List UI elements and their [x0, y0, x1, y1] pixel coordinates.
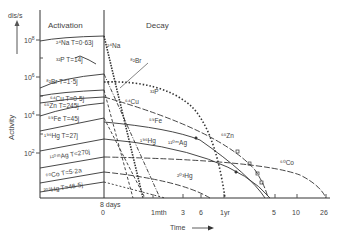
svg-text:¹⁹⁶Hg T=27j: ¹⁹⁶Hg T=27j [44, 132, 78, 140]
svg-text:10: 10 [292, 209, 300, 216]
svg-text:¹¹⁰ᵐAg: ¹¹⁰ᵐAg [168, 139, 187, 147]
svg-text:³²P T=14j: ³²P T=14j [56, 56, 83, 64]
x-axis-title: Time [170, 224, 185, 231]
decay-p [104, 82, 225, 198]
svg-text:3: 3 [181, 209, 185, 216]
svg-text:⁵⁹Fe: ⁵⁹Fe [149, 117, 162, 124]
svg-text:⁶⁵Zn T=245j: ⁶⁵Zn T=245j [44, 102, 79, 110]
svg-text:26: 26 [320, 209, 328, 216]
svg-text:²⁰³Hg: ²⁰³Hg [177, 172, 193, 180]
svg-text:²⁴Na: ²⁴Na [107, 42, 121, 49]
activity-decay-chart: dis/s Activity Activation Decay 108 106 … [0, 0, 338, 236]
decay-labels: ²⁴Na ⁸²Br ³²P ⁶⁴Cu ⁵⁹Fe ⁶⁵Zn ¹⁹⁶Hg ¹¹⁰ᵐA… [107, 42, 294, 180]
svg-text:8 days: 8 days [100, 201, 121, 209]
activation-labels: ²⁴Na T=0·63j ³²P T=14j ⁸²Br T=1·5j ⁶⁴Cu … [43, 39, 93, 195]
y-axis-title: Activity [7, 115, 16, 140]
x-tick-labels: 8 days 0 1mth 3 6 1yr 5 10 26 [100, 201, 328, 217]
svg-text:¹⁹⁶Hg: ¹⁹⁶Hg [140, 137, 156, 145]
svg-text:⁸²Br T=1·5j: ⁸²Br T=1·5j [46, 78, 78, 86]
svg-text:5: 5 [272, 209, 276, 216]
svg-text:0: 0 [101, 209, 105, 216]
svg-text:102: 102 [24, 148, 35, 157]
svg-text:106: 106 [24, 72, 35, 81]
svg-text:²⁴Na T=0·63j: ²⁴Na T=0·63j [56, 39, 93, 47]
svg-text:108: 108 [24, 35, 35, 44]
svg-text:³²P: ³²P [150, 88, 159, 95]
svg-text:²⁰³Hg T=46·5j: ²⁰³Hg T=46·5j [43, 181, 83, 195]
x-axis-arrow-icon [192, 226, 214, 231]
svg-text:⁵⁹Fe T=45j: ⁵⁹Fe T=45j [48, 115, 79, 123]
decay-hg203 [104, 172, 210, 198]
svg-text:104: 104 [24, 110, 35, 119]
svg-text:6: 6 [199, 209, 203, 216]
svg-text:⁶⁵Zn: ⁶⁵Zn [221, 132, 234, 139]
svg-text:⁶⁴Cu: ⁶⁴Cu [125, 98, 139, 105]
y-axis-arrow-icon [15, 20, 20, 54]
svg-text:1yr: 1yr [220, 209, 230, 217]
svg-text:¹¹⁰ᵐAg T=270j: ¹¹⁰ᵐAg T=270j [49, 148, 90, 162]
decay-ag [104, 139, 270, 198]
decay-steep [104, 182, 165, 198]
y-unit-label: dis/s [8, 12, 23, 19]
x-ticks [153, 194, 326, 198]
decay-title: Decay [146, 21, 169, 30]
activation-title: Activation [48, 21, 83, 30]
svg-text:1mth: 1mth [151, 209, 167, 216]
svg-text:⁶⁰Co: ⁶⁰Co [280, 159, 294, 166]
svg-text:⁸²Br: ⁸²Br [130, 57, 142, 64]
